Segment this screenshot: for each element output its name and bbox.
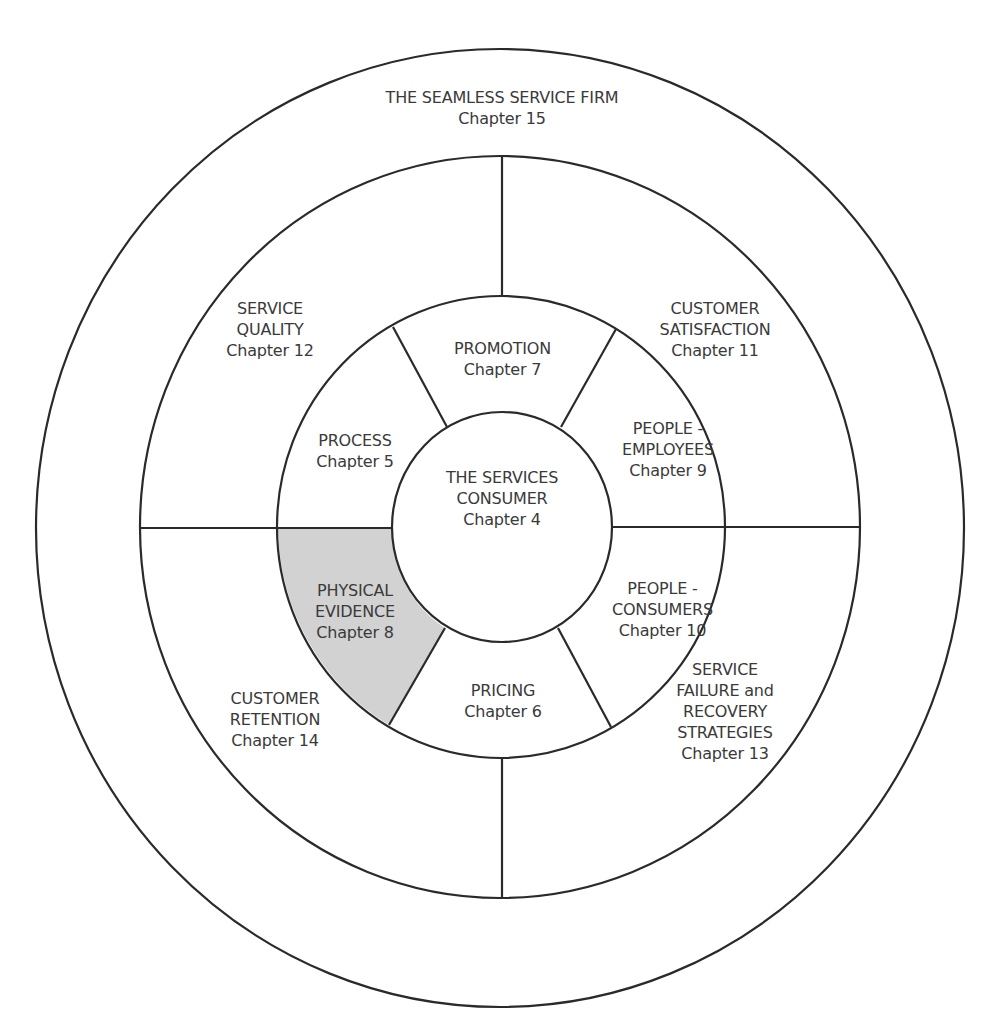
label-promotion: PROMOTION Chapter 7 bbox=[440, 338, 565, 380]
label-chapter: Chapter 15 bbox=[372, 108, 632, 129]
label-line: RETENTION bbox=[210, 709, 340, 730]
spoke-top-left bbox=[393, 327, 447, 427]
label-people-consumers: PEOPLE - CONSUMERS Chapter 10 bbox=[600, 578, 725, 641]
label-chapter: Chapter 13 bbox=[660, 743, 790, 764]
label-chapter: Chapter 6 bbox=[448, 701, 558, 722]
label-process: PROCESS Chapter 5 bbox=[305, 430, 405, 472]
label-service-failure: SERVICE FAILURE and RECOVERY STRATEGIES … bbox=[660, 659, 790, 764]
label-line: PROCESS bbox=[305, 430, 405, 451]
label-line: EVIDENCE bbox=[295, 601, 415, 622]
label-line: PEOPLE - bbox=[608, 418, 728, 439]
label-chapter: Chapter 5 bbox=[305, 451, 405, 472]
spoke-bottom-right bbox=[558, 628, 611, 727]
label-line: PHYSICAL bbox=[295, 580, 415, 601]
label-line: SATISFACTION bbox=[640, 319, 790, 340]
label-seamless-service-firm: THE SEAMLESS SERVICE FIRM Chapter 15 bbox=[372, 87, 632, 129]
label-line: RECOVERY bbox=[660, 701, 790, 722]
label-title: THE SEAMLESS SERVICE FIRM bbox=[372, 87, 632, 108]
label-line: CUSTOMER bbox=[640, 298, 790, 319]
label-chapter: Chapter 7 bbox=[440, 359, 565, 380]
label-people-employees: PEOPLE - EMPLOYEES Chapter 9 bbox=[608, 418, 728, 481]
label-pricing: PRICING Chapter 6 bbox=[448, 680, 558, 722]
label-physical-evidence: PHYSICAL EVIDENCE Chapter 8 bbox=[295, 580, 415, 643]
label-service-quality: SERVICE QUALITY Chapter 12 bbox=[215, 298, 325, 361]
label-line: SERVICE bbox=[215, 298, 325, 319]
label-chapter: Chapter 11 bbox=[640, 340, 790, 361]
label-customer-satisfaction: CUSTOMER SATISFACTION Chapter 11 bbox=[640, 298, 790, 361]
label-line: QUALITY bbox=[215, 319, 325, 340]
label-line: STRATEGIES bbox=[660, 722, 790, 743]
label-chapter: Chapter 12 bbox=[215, 340, 325, 361]
label-line: EMPLOYEES bbox=[608, 439, 728, 460]
label-customer-retention: CUSTOMER RETENTION Chapter 14 bbox=[210, 688, 340, 751]
label-line: FAILURE and bbox=[660, 680, 790, 701]
label-chapter: Chapter 14 bbox=[210, 730, 340, 751]
label-line: SERVICE bbox=[660, 659, 790, 680]
label-chapter: Chapter 8 bbox=[295, 622, 415, 643]
label-line: THE SERVICES bbox=[432, 467, 572, 488]
label-line: CONSUMER bbox=[432, 488, 572, 509]
label-line: PRICING bbox=[448, 680, 558, 701]
label-chapter: Chapter 10 bbox=[600, 620, 725, 641]
label-chapter: Chapter 4 bbox=[432, 509, 572, 530]
label-chapter: Chapter 9 bbox=[608, 460, 728, 481]
label-services-consumer: THE SERVICES CONSUMER Chapter 4 bbox=[432, 467, 572, 530]
label-line: CUSTOMER bbox=[210, 688, 340, 709]
spoke-top-right bbox=[561, 329, 616, 427]
label-line: CONSUMERS bbox=[600, 599, 725, 620]
label-line: PROMOTION bbox=[440, 338, 565, 359]
label-line: PEOPLE - bbox=[600, 578, 725, 599]
